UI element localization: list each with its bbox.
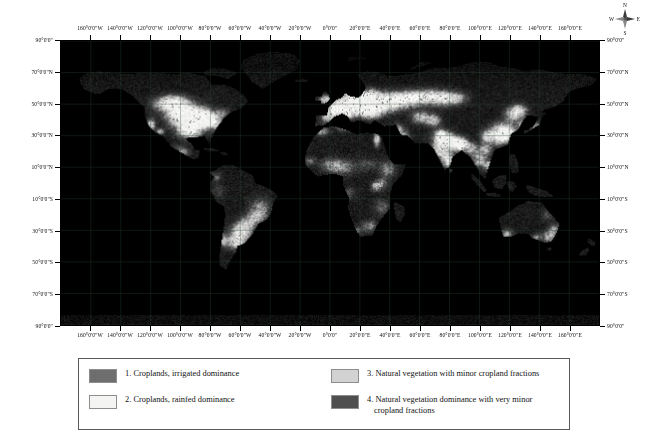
lon-label-bottom: 20°0'0"W — [289, 332, 312, 339]
world-map-raster[interactable] — [61, 41, 599, 325]
legend-item-4[interactable]: 4. Natural vegetation dominance with ver… — [331, 394, 569, 416]
lon-tick — [330, 326, 331, 331]
lat-tick — [55, 72, 60, 73]
lon-label-bottom: 60°0'0"E — [410, 332, 431, 339]
compass-rose: N E S W — [607, 1, 643, 35]
lon-tick — [510, 35, 511, 40]
lon-label-top: 100°0'0"W — [167, 25, 193, 32]
compass-label-w: W — [609, 16, 615, 22]
lon-label-top: 120°0'0"E — [498, 25, 522, 32]
lon-tick — [540, 326, 541, 331]
lon-tick — [330, 35, 331, 40]
lat-label-right: 30°0'0"S — [607, 227, 628, 234]
lon-label-top: 160°0'0"E — [558, 25, 582, 32]
lat-label-right: 70°0'0"N — [607, 68, 629, 75]
lat-label-left: 10°0'0"S — [32, 195, 53, 202]
lat-label-left: 30°0'0"S — [32, 227, 53, 234]
lat-tick — [55, 262, 60, 263]
map-legend: 1. Croplands, irrigated dominance 2. Cro… — [78, 358, 570, 430]
compass-label-s: S — [624, 30, 627, 36]
lat-label-right: 10°0'0"S — [607, 195, 628, 202]
lat-label-left: 50°0'0"N — [31, 100, 53, 107]
lon-label-top: 20°0'0"W — [289, 25, 312, 32]
legend-item-3[interactable]: 3. Natural vegetation with minor croplan… — [331, 368, 569, 383]
lon-tick — [240, 326, 241, 331]
lon-label-bottom: 60°0'0"W — [229, 332, 252, 339]
lat-tick — [55, 326, 60, 327]
lon-label-top: 40°0'0"W — [259, 25, 282, 32]
lat-tick — [600, 262, 605, 263]
lon-tick — [420, 326, 421, 331]
lat-tick — [600, 72, 605, 73]
map-frame[interactable] — [60, 40, 600, 326]
lon-tick — [390, 326, 391, 331]
lon-label-top: 120°0'0"W — [137, 25, 163, 32]
lat-tick — [600, 231, 605, 232]
lon-tick — [150, 35, 151, 40]
lon-tick — [150, 326, 151, 331]
lon-label-top: 160°0'0"W — [77, 25, 103, 32]
lat-tick — [55, 231, 60, 232]
legend-label-4-wrap: 4. Natural vegetation dominance with ver… — [367, 394, 532, 416]
lat-label-right: 50°0'0"N — [607, 100, 629, 107]
lat-label-left: 10°0'0"N — [31, 164, 53, 171]
lon-tick — [300, 326, 301, 331]
lon-label-top: 40°0'0"E — [380, 25, 401, 32]
lon-tick — [510, 326, 511, 331]
lon-label-bottom: 80°0'0"E — [440, 332, 461, 339]
lat-tick — [600, 135, 605, 136]
lon-tick — [360, 326, 361, 331]
lon-tick — [210, 326, 211, 331]
lon-label-top: 80°0'0"E — [440, 25, 461, 32]
legend-item-1[interactable]: 1. Croplands, irrigated dominance — [89, 368, 334, 383]
lon-tick — [540, 35, 541, 40]
lon-tick — [90, 35, 91, 40]
lon-label-bottom: 40°0'0"W — [259, 332, 282, 339]
lat-tick — [55, 40, 60, 41]
lon-label-bottom: 140°0'0"E — [528, 332, 552, 339]
lon-label-top: 20°0'0"E — [350, 25, 371, 32]
legend-swatch-4 — [331, 395, 359, 409]
lon-label-bottom: 0°0'0" — [323, 332, 338, 339]
lat-label-right: 90°0'0" — [607, 323, 624, 330]
lon-tick — [120, 326, 121, 331]
legend-item-2[interactable]: 2. Croplands, rainfed dominance — [89, 394, 334, 409]
legend-label-4-line2: cropland fractions — [367, 405, 532, 416]
lat-label-left: 50°0'0"S — [32, 259, 53, 266]
legend-swatch-2 — [89, 395, 117, 409]
compass-star-icon — [615, 9, 635, 29]
lon-label-top: 0°0'0" — [323, 25, 338, 32]
lon-label-top: 140°0'0"E — [528, 25, 552, 32]
lon-tick — [480, 35, 481, 40]
lat-label-left: 90°0'0" — [36, 37, 53, 44]
lat-label-left: 90°0'0" — [36, 323, 53, 330]
lon-label-top: 60°0'0"W — [229, 25, 252, 32]
lat-label-left: 30°0'0"N — [31, 132, 53, 139]
lon-tick — [210, 35, 211, 40]
lat-label-left: 70°0'0"S — [32, 291, 53, 298]
lon-tick — [450, 35, 451, 40]
legend-swatch-1 — [89, 369, 117, 383]
lon-tick — [570, 35, 571, 40]
compass-label-e: E — [637, 16, 641, 22]
lat-tick — [55, 135, 60, 136]
lat-tick — [55, 167, 60, 168]
lon-label-bottom: 140°0'0"W — [107, 332, 133, 339]
lon-label-top: 80°0'0"W — [199, 25, 222, 32]
lon-tick — [90, 326, 91, 331]
lon-label-top: 140°0'0"W — [107, 25, 133, 32]
lon-tick — [390, 35, 391, 40]
legend-label-4-line1: 4. Natural vegetation dominance with ver… — [367, 395, 532, 404]
lat-label-right: 30°0'0"N — [607, 132, 629, 139]
lon-tick — [180, 326, 181, 331]
lat-tick — [600, 167, 605, 168]
lat-tick — [55, 294, 60, 295]
lat-label-left: 70°0'0"N — [31, 68, 53, 75]
lon-label-bottom: 120°0'0"W — [137, 332, 163, 339]
lat-label-right: 10°0'0"N — [607, 164, 629, 171]
lon-label-bottom: 160°0'0"W — [77, 332, 103, 339]
lon-label-bottom: 80°0'0"W — [199, 332, 222, 339]
lat-tick — [55, 199, 60, 200]
lon-label-bottom: 160°0'0"E — [558, 332, 582, 339]
lat-label-right: 90°0'0" — [607, 37, 624, 44]
